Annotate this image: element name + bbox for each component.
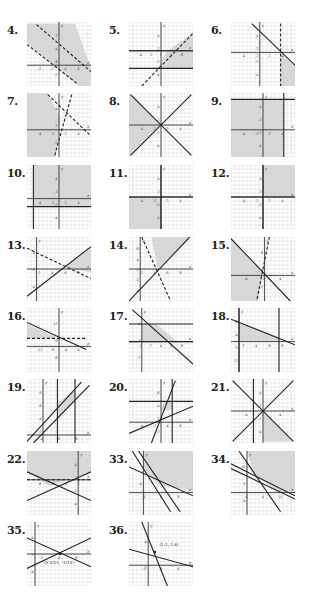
x-tick-label: 2 bbox=[149, 344, 151, 348]
y-tick-label: -2 bbox=[54, 203, 58, 207]
inequality-graph: yx24642-4(5 5/11, -1/11) bbox=[27, 522, 91, 586]
x-tick-label: 2 bbox=[166, 199, 168, 203]
x-tick-label: -2 bbox=[255, 54, 259, 58]
exercise-number: 18. bbox=[211, 310, 229, 323]
inequality-graph: yx-4410105-4 bbox=[231, 451, 295, 515]
exercise-item: 33.yx-448-4 bbox=[109, 451, 209, 521]
y-tick-label: -2 bbox=[156, 203, 160, 207]
inequality-graph: yx-4-22442-2-4 bbox=[129, 93, 193, 157]
exercise-number: 34. bbox=[211, 453, 229, 466]
inequality-graph: yx-4-22442-2-4 bbox=[231, 22, 295, 86]
inequality-graph: yx-4-22442-2-4 bbox=[231, 93, 295, 157]
y-tick-label: 2 bbox=[256, 47, 258, 51]
inequality-graph: yx-2246842-2 bbox=[129, 308, 193, 372]
y-tick-label: 10 bbox=[241, 465, 246, 469]
exercise-number: 22. bbox=[7, 453, 25, 466]
exercise-item: 6.yx-4-22442-2-4 bbox=[211, 22, 311, 92]
x-tick-label: 2 bbox=[64, 201, 66, 205]
exercise-item: 15.yx-4-24642 bbox=[211, 237, 311, 307]
inequality-graph: yx-4-22442-2-4 bbox=[231, 165, 295, 229]
exercise-item: 36.yx-2464-2(1.2, 1.6) bbox=[109, 522, 209, 592]
inequality-graph: yx-448-4 bbox=[129, 451, 193, 515]
exercise-number: 11. bbox=[109, 167, 127, 180]
y-tick-label: -2 bbox=[258, 417, 262, 421]
exercise-item: 21.yx-42442-2-4 bbox=[211, 379, 311, 449]
y-tick-label: 2 bbox=[55, 34, 57, 38]
y-tick-label: 2 bbox=[136, 268, 138, 272]
x-tick-label: 10 bbox=[278, 495, 283, 499]
y-tick-label: -2 bbox=[32, 268, 36, 272]
exercise-item: 14.yx-2468642-2-4 bbox=[109, 237, 209, 307]
y-tick-label: 2 bbox=[261, 285, 263, 289]
y-tick-label: -2 bbox=[54, 141, 58, 145]
exercise-number: 12. bbox=[211, 167, 229, 180]
exercise-number: 33. bbox=[109, 453, 127, 466]
exercise-number: 21. bbox=[211, 381, 229, 394]
exercise-number: 4. bbox=[7, 24, 18, 37]
y-tick-label: -2 bbox=[255, 60, 259, 64]
y-tick-label: 2 bbox=[235, 346, 237, 350]
x-tick-label: -2 bbox=[149, 53, 153, 57]
exercise-item: 20.yx-4-246642-2 bbox=[109, 379, 209, 449]
exercise-number: 19. bbox=[7, 381, 25, 394]
y-tick-label: -2 bbox=[137, 356, 141, 360]
y-tick-label: 2 bbox=[138, 339, 140, 343]
inequality-graph: yx-4-22442-2 bbox=[27, 93, 91, 157]
exercise-item: 19.yx4688642 bbox=[7, 379, 107, 449]
inequality-graph: yx-4-22442-2-4 bbox=[129, 165, 193, 229]
exercise-item: 5.yx-4-224642-2-4 bbox=[109, 22, 209, 92]
y-tick-label: -2 bbox=[258, 203, 262, 207]
y-tick-label: 5 bbox=[243, 482, 245, 486]
inequality-graph: yx-4-246642-2 bbox=[129, 379, 193, 443]
y-tick-label: -2 bbox=[143, 566, 147, 570]
exercise-number: 36. bbox=[109, 524, 127, 537]
exercise-item: 9.yx-4-22442-2-4 bbox=[211, 93, 311, 163]
exercise-number: 35. bbox=[7, 524, 25, 537]
exercise-number: 6. bbox=[211, 24, 222, 37]
inequality-graph: yx-2464-2(1.2, 1.6) bbox=[129, 522, 193, 586]
x-tick-label: 2 bbox=[262, 413, 264, 417]
inequality-graph: yx2468642-2 bbox=[231, 308, 295, 372]
y-tick-label: -2 bbox=[156, 60, 160, 64]
y-tick-label: -2 bbox=[258, 131, 262, 135]
intersection-label: (1.2, 1.6) bbox=[159, 542, 179, 547]
exercise-number: 5. bbox=[109, 24, 120, 37]
x-tick-label: 2 bbox=[38, 271, 40, 275]
y-tick-label: 2 bbox=[39, 430, 41, 434]
exercise-item: 34.yx-4410105-4 bbox=[211, 451, 311, 521]
inequality-graph: yx4688642 bbox=[27, 379, 91, 443]
inequality-graph: yx-42442-2-4 bbox=[231, 379, 295, 443]
exercise-item: 35.yx24642-4(5 5/11, -1/11) bbox=[7, 522, 107, 592]
exercise-item: 12.yx-4-22442-2-4 bbox=[211, 165, 311, 235]
inequality-graph: yx-4-24642 bbox=[231, 237, 295, 301]
exercise-number: 15. bbox=[211, 239, 229, 252]
x-tick-label: 2 bbox=[268, 54, 270, 58]
exercise-item: 22.yx-8-6-2242-2-4 bbox=[7, 451, 107, 521]
y-tick-label: 2 bbox=[157, 417, 159, 421]
inequality-graph: yx24684-2-4 bbox=[27, 237, 91, 301]
y-tick-label: 2 bbox=[259, 118, 261, 122]
exercise-item: 10.yx-4-22442-2-4 bbox=[7, 165, 107, 235]
y-tick-label: 2 bbox=[55, 190, 57, 194]
y-tick-label: 2 bbox=[31, 553, 33, 557]
x-tick-label: 2 bbox=[242, 344, 244, 348]
x-tick-label: 2 bbox=[160, 53, 162, 57]
inequality-graph: yx-2246246-2 bbox=[27, 22, 91, 86]
x-tick-label: -2 bbox=[38, 67, 42, 71]
exercise-number: 13. bbox=[7, 239, 25, 252]
exercise-item: 8.yx-4-22442-2-4 bbox=[109, 93, 209, 163]
x-tick-label: -12 bbox=[37, 348, 43, 352]
exercise-number: 17. bbox=[109, 310, 127, 323]
y-tick-label: 2 bbox=[157, 190, 159, 194]
y-tick-label: -2 bbox=[156, 131, 160, 135]
y-tick-label: 2 bbox=[55, 124, 57, 128]
x-tick-label: 2 bbox=[77, 482, 79, 486]
exercise-item: 4.yx-2246246-2 bbox=[7, 22, 107, 92]
exercise-number: 14. bbox=[109, 239, 127, 252]
exercise-item: 11.yx-4-22442-2-4 bbox=[109, 165, 209, 235]
x-tick-label: 2 bbox=[268, 132, 270, 136]
inequality-graph: yx-4-224642-2-4 bbox=[129, 22, 193, 86]
exercise-item: 18.yx2468642-2 bbox=[211, 308, 311, 378]
intersection-label: (5 5/11, -1/11) bbox=[44, 560, 75, 565]
x-tick-label: -2 bbox=[140, 271, 144, 275]
